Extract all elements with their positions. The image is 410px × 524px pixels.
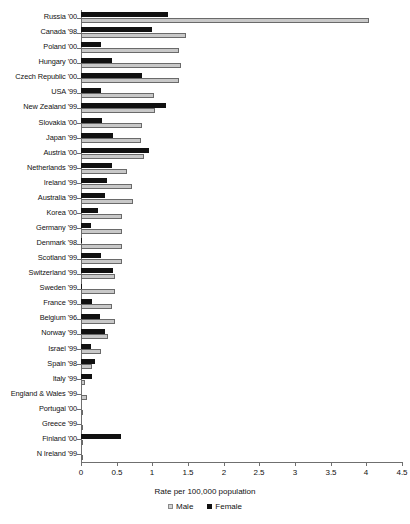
bar-male [81, 455, 83, 460]
category-label: New Zealand '99 [0, 103, 77, 111]
category-label: Korea '00 [0, 209, 77, 217]
bar-male [81, 319, 115, 324]
legend-label-female: Female [215, 502, 242, 511]
category-label: Austria '00 [0, 149, 77, 157]
x-axis-tick [366, 462, 367, 466]
category-label: Japan '99 [0, 134, 77, 142]
bar-female [81, 88, 101, 93]
category-label: Norway '99 [0, 329, 77, 337]
category-label: Canada '98 [0, 28, 77, 36]
category-label: Switzerland '99 [0, 269, 77, 277]
category-label: Israel '99 [0, 345, 77, 353]
category-label: Germany '99 [0, 224, 77, 232]
bar-female [81, 58, 112, 63]
bar-male [81, 440, 83, 445]
legend-label-male: Male [176, 502, 193, 511]
x-axis-tick [224, 462, 225, 466]
x-axis-tick [331, 462, 332, 466]
bar-female [81, 329, 105, 334]
female-swatch-icon [207, 504, 212, 509]
bar-female [81, 268, 113, 273]
bar-female [81, 374, 92, 379]
x-axis-tick-label: 4.5 [387, 468, 410, 477]
x-axis-line [81, 462, 402, 463]
bar-male [81, 169, 127, 174]
category-label: Denmark '98 [0, 239, 77, 247]
bar-female [81, 118, 102, 123]
bar-male [81, 380, 85, 385]
x-axis-tick-label: 4 [351, 468, 381, 477]
bar-male [81, 334, 108, 339]
category-label: Greece '99 [0, 420, 77, 428]
category-label: Netherlands '99 [0, 164, 77, 172]
category-label: Australia '99 [0, 194, 77, 202]
bar-female [81, 223, 91, 228]
bar-male [81, 304, 112, 309]
chart-legend: Male Female [0, 502, 410, 511]
category-label: Scotland '99 [0, 254, 77, 262]
bar-male [81, 364, 92, 369]
firearm-rate-bar-chart: Russia '00Canada '98Poland '00Hungary '0… [0, 0, 410, 524]
bar-male [81, 349, 101, 354]
category-label: Sweden '99 [0, 284, 77, 292]
category-label: Czech Republic '00 [0, 73, 77, 81]
x-axis-tick-label: 2.5 [244, 468, 274, 477]
bar-female [81, 103, 166, 108]
category-label: Hungary '00 [0, 58, 77, 66]
bar-female [81, 148, 149, 153]
legend-item-female: Female [207, 502, 242, 511]
x-axis-tick-label: 2 [209, 468, 239, 477]
category-label: Italy '99 [0, 375, 77, 383]
bar-male [81, 184, 132, 189]
bar-male [81, 274, 115, 279]
bar-female [81, 253, 101, 258]
x-axis-tick [295, 462, 296, 466]
bar-female [81, 178, 107, 183]
bar-male [81, 138, 141, 143]
category-label: England & Wales '99 [0, 390, 77, 398]
bar-female [81, 163, 112, 168]
bar-female [81, 73, 142, 78]
x-axis-tick [152, 462, 153, 466]
bar-male [81, 93, 154, 98]
category-label: Spain '98 [0, 360, 77, 368]
x-axis-tick-label: 0.5 [102, 468, 132, 477]
bar-male [81, 78, 179, 83]
bar-female [81, 238, 82, 243]
bar-male [81, 259, 122, 264]
bar-male [81, 108, 155, 113]
bar-male [81, 18, 369, 23]
x-axis-tick-label: 3 [280, 468, 310, 477]
bar-male [81, 214, 122, 219]
bar-female [81, 284, 82, 289]
x-axis-tick [188, 462, 189, 466]
category-label: Portugal '00 [0, 405, 77, 413]
male-swatch-icon [168, 504, 173, 509]
bar-male [81, 410, 83, 415]
bar-female [81, 193, 105, 198]
bar-male [81, 229, 122, 234]
bar-female [81, 344, 91, 349]
bar-female [81, 12, 168, 17]
bar-female [81, 359, 95, 364]
bar-male [81, 33, 186, 38]
category-label: Slovakia '00 [0, 119, 77, 127]
legend-item-male: Male [168, 502, 193, 511]
bar-female [81, 42, 101, 47]
bar-female [81, 27, 152, 32]
x-axis-tick [117, 462, 118, 466]
x-axis-title: Rate per 100,000 population [0, 487, 410, 496]
category-label: Ireland '99 [0, 179, 77, 187]
x-axis-tick-label: 3.5 [316, 468, 346, 477]
category-label: USA '99 [0, 88, 77, 96]
x-axis-tick [402, 462, 403, 466]
bar-female [81, 299, 92, 304]
x-axis-tick-label: 1.5 [173, 468, 203, 477]
category-label: Belgium '96 [0, 314, 77, 322]
x-axis-tick-label: 1 [137, 468, 167, 477]
bar-male [81, 123, 142, 128]
bar-female [81, 434, 121, 439]
bar-male [81, 154, 144, 159]
bar-male [81, 425, 83, 430]
category-label: Poland '00 [0, 43, 77, 51]
